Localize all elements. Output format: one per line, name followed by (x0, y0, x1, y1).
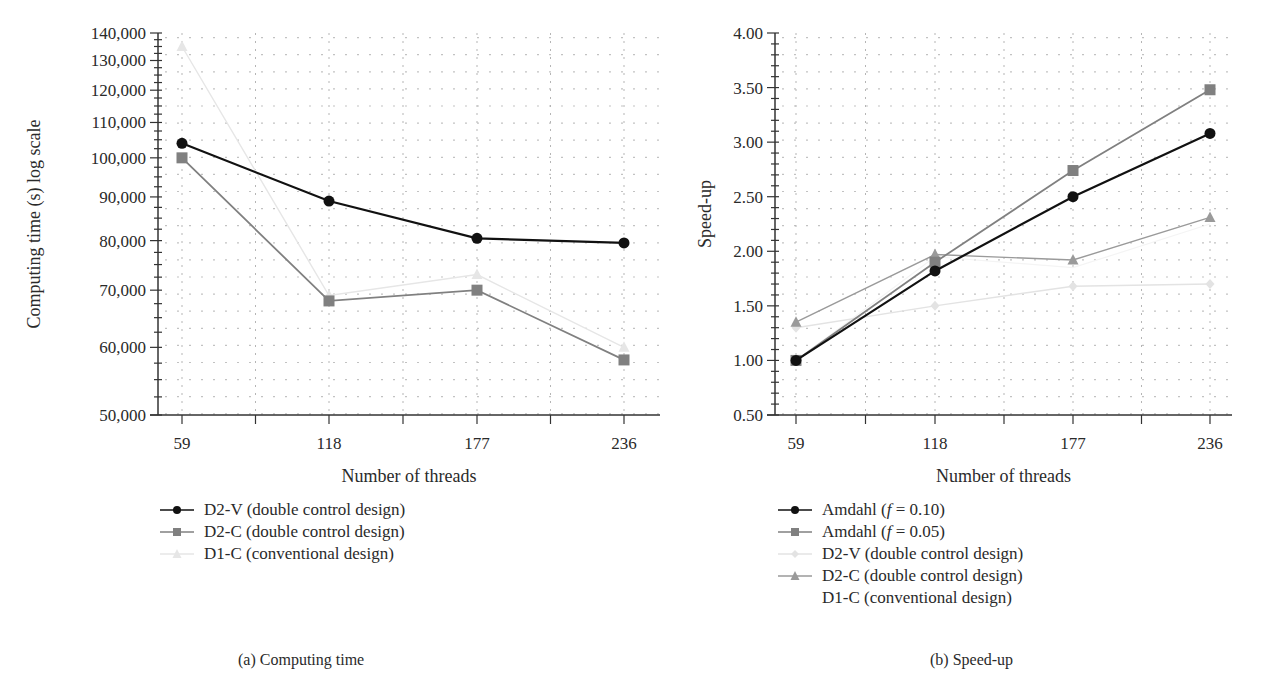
y-tick-label: 3.50 (733, 79, 763, 98)
legend-label: D2-V (double control design) (822, 544, 1023, 564)
diamond-marker-icon (778, 547, 812, 561)
legend-item: Amdahl (f = 0.10) (778, 499, 1023, 521)
caption-speed-up: (b) Speed-up (930, 651, 1013, 669)
y-axis-label: Speed-up (695, 180, 715, 248)
legend-item: D2-C (double control design) (778, 565, 1023, 587)
triangle-marker-icon (778, 569, 812, 583)
data-point-marker (1068, 165, 1079, 176)
y-tick-label: 3.00 (733, 133, 763, 152)
legend-label: D1-C (conventional design) (822, 588, 1012, 608)
x-tick-label: 177 (1060, 434, 1086, 453)
legend-label: Amdahl (f = 0.05) (822, 522, 945, 542)
data-point-marker (791, 355, 802, 366)
data-point-marker (1205, 128, 1216, 139)
data-point-marker (791, 316, 802, 327)
data-point-marker (1206, 279, 1215, 289)
data-point-marker (1069, 281, 1078, 291)
none-marker-icon (778, 591, 812, 605)
legend-item: D1-C (conventional design) (778, 587, 1023, 609)
y-tick-label: 1.50 (733, 297, 763, 316)
y-tick-label: 2.00 (733, 242, 763, 261)
square-marker-icon (778, 525, 812, 539)
speed-up-legend: Amdahl (f = 0.10)Amdahl (f = 0.05)D2-V (… (778, 499, 1023, 609)
legend-label: D2-C (double control design) (822, 566, 1023, 586)
y-tick-label: 1.00 (733, 351, 763, 370)
data-point-marker (930, 265, 941, 276)
data-point-marker (1068, 191, 1079, 202)
y-tick-label: 0.50 (733, 406, 763, 425)
x-tick-label: 118 (923, 434, 948, 453)
grid (783, 33, 1227, 415)
y-tick-label: 4.00 (733, 24, 763, 43)
legend-item: D2-V (double control design) (778, 543, 1023, 565)
speed-up-chart: 4.003.503.002.502.001.501.000.5059118177… (0, 0, 1269, 500)
series-line (796, 133, 1210, 360)
legend-item: Amdahl (f = 0.05) (778, 521, 1023, 543)
legend-label: Amdahl (f = 0.10) (822, 500, 945, 520)
data-point-marker (1205, 211, 1216, 222)
data-point-marker (1205, 84, 1216, 95)
y-tick-label: 2.50 (733, 188, 763, 207)
axes (767, 33, 1232, 415)
x-tick-label: 59 (788, 434, 805, 453)
x-axis-label: Number of threads (936, 466, 1071, 486)
circle-marker-icon (778, 503, 812, 517)
x-tick-label: 236 (1197, 434, 1223, 453)
chart-panel-speed-up: 4.003.503.002.502.001.501.000.5059118177… (0, 0, 1269, 695)
data-point-marker (931, 301, 940, 311)
